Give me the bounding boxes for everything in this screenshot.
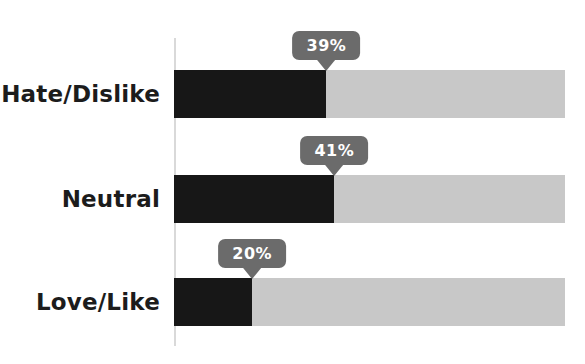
bar-chart: Hate/Dislike Neutral Love/Like 39% 41% 2… <box>0 0 585 364</box>
category-label-neutral: Neutral <box>0 175 160 223</box>
category-label-hate-dislike: Hate/Dislike <box>0 70 160 118</box>
bar-track-neutral: 41% <box>174 175 565 223</box>
value-tooltip-hate-dislike: 39% <box>293 31 361 60</box>
bar-fill-neutral <box>174 175 334 223</box>
bar-track-love-like: 20% <box>174 278 565 326</box>
value-tooltip-neutral: 41% <box>300 136 368 165</box>
value-tooltip-love-like: 20% <box>218 239 286 268</box>
bar-fill-love-like <box>174 278 252 326</box>
bar-fill-hate-dislike <box>174 70 326 118</box>
bar-track-hate-dislike: 39% <box>174 70 565 118</box>
category-label-love-like: Love/Like <box>0 278 160 326</box>
